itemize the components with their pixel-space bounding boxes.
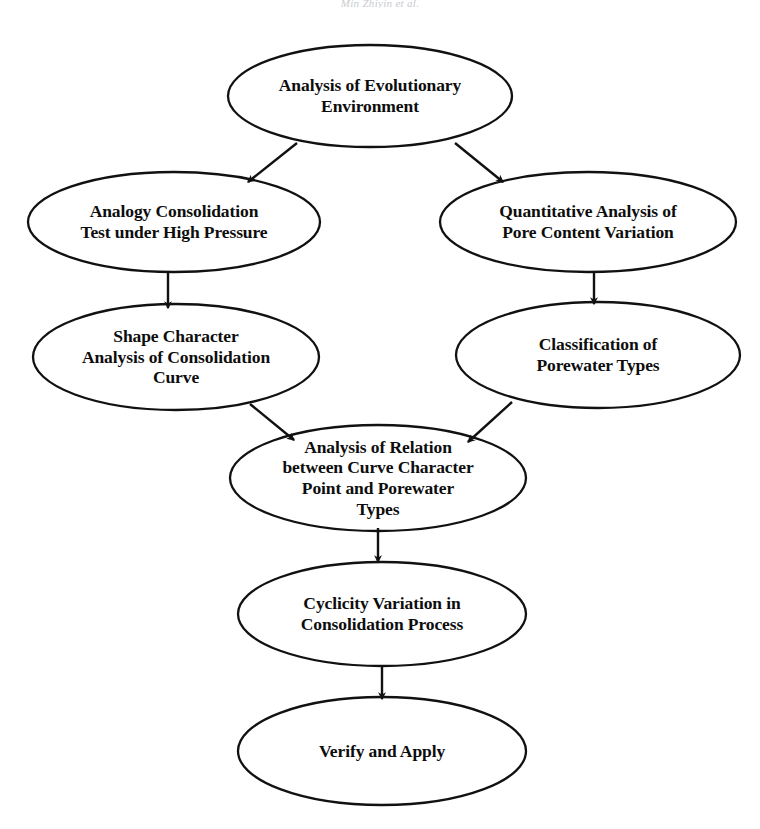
flow-connector-edge-left-to-merge xyxy=(250,404,294,440)
node-layer xyxy=(28,45,740,805)
node-ellipse-quantitative-analysis-of-pore-content-variation[interactable] xyxy=(440,172,736,272)
flow-connector-edge-root-to-right xyxy=(455,143,503,182)
flowchart-canvas xyxy=(0,0,760,829)
node-ellipse-analysis-of-evolutionary-environment[interactable] xyxy=(228,45,512,147)
node-ellipse-verify-and-apply[interactable] xyxy=(238,697,526,805)
node-ellipse-analogy-consolidation-test-under-high-pressure[interactable] xyxy=(28,172,320,272)
flow-connector-edge-right-to-merge xyxy=(468,402,512,442)
node-ellipse-cyclicity-variation-in-consolidation-process[interactable] xyxy=(238,562,526,666)
node-ellipse-classification-of-porewater-types[interactable] xyxy=(456,302,740,408)
node-ellipse-shape-character-analysis-of-consolidation-curve[interactable] xyxy=(33,304,319,410)
flowchart-figure: Min Zhiyin et al. Analysis of Evolutiona… xyxy=(0,0,760,829)
node-ellipse-analysis-of-relation-between-curve-character-point-and-porewater-types[interactable] xyxy=(230,425,526,531)
flow-connector-edge-root-to-left xyxy=(248,143,297,182)
